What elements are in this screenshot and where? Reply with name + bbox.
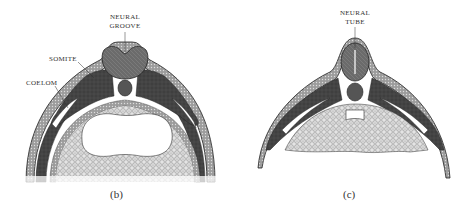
label-coelom: COELOM xyxy=(26,79,57,88)
label-neural-tube-line1: NEURAL xyxy=(335,9,375,18)
notochord xyxy=(347,83,363,101)
label-neural-tube-line2: TUBE xyxy=(335,18,375,27)
archenteron-cavity xyxy=(82,114,172,157)
archenteron-cavity xyxy=(346,110,364,120)
caption-b: (b) xyxy=(110,188,123,200)
label-neural-groove-line1: NEURAL xyxy=(105,13,145,22)
label-neural-tube: NEURAL TUBE xyxy=(335,9,375,27)
caption-c: (c) xyxy=(343,188,355,200)
embryo-cross-section-diagram xyxy=(0,0,475,213)
label-neural-groove-line2: GROOVE xyxy=(105,22,145,31)
label-somite: SOMITE xyxy=(49,55,77,64)
label-neural-groove: NEURAL GROOVE xyxy=(105,13,145,31)
panel-c-neural-tube-stage xyxy=(258,38,450,178)
notochord xyxy=(118,80,132,96)
